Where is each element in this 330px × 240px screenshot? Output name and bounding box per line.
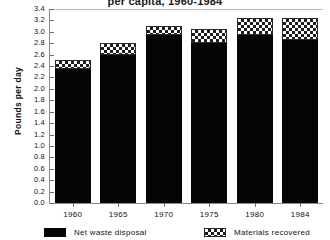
y-tick-label: 1.4 bbox=[34, 118, 45, 127]
y-tick-label: 2.6 bbox=[34, 50, 45, 59]
y-tick-label: 0.0 bbox=[34, 198, 45, 207]
bar-segment-materials-recovered[interactable] bbox=[55, 60, 91, 69]
y-tick-label: 2.4 bbox=[34, 61, 45, 70]
x-tick-mark bbox=[118, 203, 119, 207]
y-tick-label: 2.0 bbox=[34, 84, 45, 93]
y-tick-mark bbox=[50, 112, 54, 113]
bar-segment-materials-recovered[interactable] bbox=[191, 29, 227, 43]
y-tick-mark bbox=[50, 66, 54, 67]
x-tick-label: 1980 bbox=[235, 210, 275, 219]
y-tick-label: 1.6 bbox=[34, 107, 45, 116]
x-tick-label: 1975 bbox=[189, 210, 229, 219]
y-tick-label: 3.4 bbox=[34, 4, 45, 13]
x-tick-label: 1970 bbox=[144, 210, 184, 219]
y-tick-mark bbox=[50, 55, 54, 56]
y-tick-label: 0.4 bbox=[34, 175, 45, 184]
y-tick-mark bbox=[50, 43, 54, 44]
y-tick-mark bbox=[50, 203, 54, 204]
legend-swatch-checker-icon bbox=[204, 228, 226, 237]
bar-segment-materials-recovered[interactable] bbox=[146, 26, 182, 35]
plot-area: 0.00.20.40.60.81.01.21.41.61.82.02.22.42… bbox=[49, 9, 323, 204]
bar-segment-net-waste-disposal[interactable] bbox=[146, 35, 182, 203]
x-tick-mark bbox=[255, 203, 256, 207]
bar-segment-materials-recovered[interactable] bbox=[282, 18, 318, 41]
y-tick-mark bbox=[50, 169, 54, 170]
bar-segment-net-waste-disposal[interactable] bbox=[191, 43, 227, 203]
x-tick-label: 1960 bbox=[53, 210, 93, 219]
x-tick-mark bbox=[300, 203, 301, 207]
chart-container: per capita, 1960-1984 Pounds per day 0.0… bbox=[0, 0, 330, 240]
bar-segment-net-waste-disposal[interactable] bbox=[100, 55, 136, 203]
legend-item[interactable]: Materials recovered bbox=[204, 226, 310, 238]
bar-segment-materials-recovered[interactable] bbox=[237, 18, 273, 35]
y-tick-label: 3.0 bbox=[34, 27, 45, 36]
x-tick-mark bbox=[164, 203, 165, 207]
y-tick-mark bbox=[50, 123, 54, 124]
x-tick-label: 1984 bbox=[280, 210, 320, 219]
y-tick-mark bbox=[50, 100, 54, 101]
x-tick-mark bbox=[209, 203, 210, 207]
y-tick-mark bbox=[50, 157, 54, 158]
y-tick-label: 0.6 bbox=[34, 164, 45, 173]
y-tick-mark bbox=[50, 89, 54, 90]
bar-segment-net-waste-disposal[interactable] bbox=[282, 40, 318, 203]
y-tick-label: 0.2 bbox=[34, 187, 45, 196]
y-tick-label: 2.8 bbox=[34, 38, 45, 47]
y-tick-mark bbox=[50, 146, 54, 147]
y-tick-label: 1.8 bbox=[34, 95, 45, 104]
legend-label: Net waste disposal bbox=[74, 228, 147, 237]
y-tick-label: 3.2 bbox=[34, 15, 45, 24]
bar-segment-net-waste-disposal[interactable] bbox=[237, 35, 273, 203]
y-tick-mark bbox=[50, 9, 54, 10]
y-tick-mark bbox=[50, 20, 54, 21]
legend-swatch-solid-icon bbox=[44, 228, 66, 237]
legend-item[interactable]: Net waste disposal bbox=[44, 226, 147, 238]
x-tick-label: 1965 bbox=[98, 210, 138, 219]
y-tick-mark bbox=[50, 135, 54, 136]
y-tick-label: 0.8 bbox=[34, 152, 45, 161]
y-axis-title: Pounds per day bbox=[13, 41, 23, 161]
y-tick-mark bbox=[50, 77, 54, 78]
y-tick-label: 2.2 bbox=[34, 72, 45, 81]
y-tick-label: 1.0 bbox=[34, 141, 45, 150]
y-tick-mark bbox=[50, 192, 54, 193]
y-tick-label: 1.2 bbox=[34, 130, 45, 139]
chart-legend: Net waste disposalMaterials recovered bbox=[0, 226, 330, 240]
legend-label: Materials recovered bbox=[234, 228, 310, 237]
bar-segment-materials-recovered[interactable] bbox=[100, 43, 136, 54]
y-tick-mark bbox=[50, 32, 54, 33]
y-tick-mark bbox=[50, 180, 54, 181]
x-tick-mark bbox=[73, 203, 74, 207]
bar-segment-net-waste-disposal[interactable] bbox=[55, 69, 91, 203]
